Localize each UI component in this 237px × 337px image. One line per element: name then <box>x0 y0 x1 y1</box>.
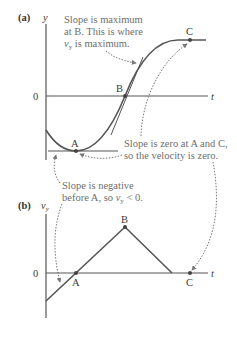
point-c-b <box>188 271 192 275</box>
zero-slope-note-line1: Slope is zero at A and C, <box>124 138 228 149</box>
y-axis-label: y <box>42 12 48 23</box>
point-c-label: C <box>186 26 193 37</box>
position-velocity-diagram: (a) y 0 t A B C Slope is maximum at B. T… <box>0 0 237 337</box>
point-b-label: B <box>116 83 123 94</box>
point-a-b <box>74 271 78 275</box>
t-axis-label: t <box>211 91 215 102</box>
zero-slope-note-line2: so the velocity is zero. <box>124 150 218 161</box>
panel-b-label: (b) <box>18 200 31 212</box>
point-c <box>188 38 192 42</box>
negative-slope-annotation: Slope is negative before A, so vy < 0. <box>54 155 143 282</box>
panel-a-label: (a) <box>18 12 31 24</box>
negative-slope-line1: Slope is negative <box>62 180 134 191</box>
origin-label-b: 0 <box>33 268 38 279</box>
point-b-b-label: B <box>121 214 128 225</box>
max-slope-note-line1: Slope is maximum <box>64 14 143 25</box>
point-b <box>123 94 127 98</box>
zero-slope-arrow-c <box>141 44 187 136</box>
negative-slope-line2: before A, so vy < 0. <box>62 192 143 205</box>
point-b-b <box>123 225 127 229</box>
velocity-curve <box>46 227 172 301</box>
panel-b: (b) vy 0 t A B C <box>18 200 215 318</box>
point-a-b-label: A <box>72 277 80 288</box>
zero-slope-arrow-b-c <box>192 162 216 270</box>
panel-a: (a) y 0 t A B C Slope is maximum at B. T… <box>18 12 228 270</box>
point-a <box>74 149 78 153</box>
point-c-b-label: C <box>186 277 193 288</box>
negative-slope-arrow-a <box>54 155 60 183</box>
max-slope-arrow <box>106 51 136 63</box>
max-slope-note-line3: vy is maximum. <box>64 38 130 51</box>
origin-label: 0 <box>33 91 38 102</box>
t-axis-label-b: t <box>211 268 215 279</box>
negative-slope-arrow-b <box>55 204 62 282</box>
max-slope-note-line2: at B. This is where <box>64 26 143 37</box>
point-a-label: A <box>71 138 79 149</box>
vy-axis-label: vy <box>41 200 50 213</box>
zero-slope-arrow-a <box>80 154 122 158</box>
